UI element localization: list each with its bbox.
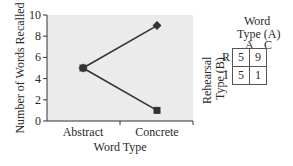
y-tick-label: 4 xyxy=(35,72,41,86)
table-row-header-i: I xyxy=(224,68,228,83)
y-tick-label: 2 xyxy=(35,93,41,107)
table-row-header-r: R xyxy=(222,50,230,65)
x-tick-label: Concrete xyxy=(135,125,178,139)
y-tick-label: 8 xyxy=(35,29,41,43)
x-axis-label: Word Type xyxy=(94,140,147,154)
x-tick-label: Abstract xyxy=(63,125,104,139)
cell-i-c: 1 xyxy=(250,67,267,85)
cell-means-table: 5 9 5 1 xyxy=(232,48,267,85)
y-axis-label: Number of Words Recalled xyxy=(13,2,27,133)
cell-i-a: 5 xyxy=(233,67,250,85)
line-chart: 0246810AbstractConcrete Word Type Number… xyxy=(0,0,200,166)
table-col-title-2: Type (A) xyxy=(237,27,280,42)
plot-area xyxy=(47,15,193,121)
square-marker xyxy=(80,65,87,72)
y-tick-label: 10 xyxy=(29,8,41,22)
y-tick-label: 0 xyxy=(35,114,41,128)
square-marker xyxy=(154,107,161,114)
cell-r-c: 9 xyxy=(250,49,267,67)
y-tick-label: 6 xyxy=(35,50,41,64)
cell-r-a: 5 xyxy=(233,49,250,67)
